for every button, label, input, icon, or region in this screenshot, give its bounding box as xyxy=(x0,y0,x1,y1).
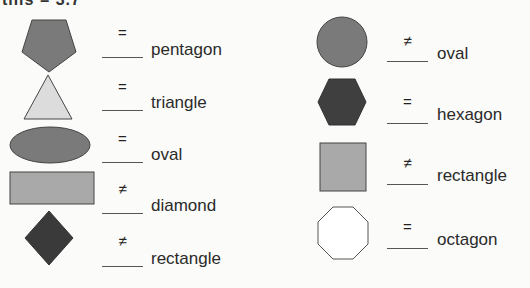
shape-label: octagon xyxy=(437,230,498,250)
answer-row: ≠ rectangle xyxy=(102,232,302,272)
answer-row: ≠ rectangle xyxy=(387,154,530,194)
answer-row: = triangle xyxy=(102,78,302,118)
comparison-mark: = xyxy=(102,78,143,95)
answer-blank[interactable] xyxy=(102,162,143,163)
circle-shape-icon xyxy=(316,16,368,68)
worksheet-heading-cropped: this = 3.7 xyxy=(2,0,81,9)
answer-blank[interactable] xyxy=(387,184,428,185)
answer-blank[interactable] xyxy=(387,248,428,249)
answer-row: = hexagon xyxy=(387,93,530,133)
pentagon-shape-icon xyxy=(21,19,77,73)
answer-row: = pentagon xyxy=(102,24,302,64)
shape-label: diamond xyxy=(151,196,216,216)
answer-row: = oval xyxy=(102,130,302,170)
oval-shape-icon xyxy=(9,126,91,164)
answer-row: = octagon xyxy=(387,218,530,258)
comparison-mark: ≠ xyxy=(102,180,143,197)
shape-label: hexagon xyxy=(437,105,502,125)
answer-blank[interactable] xyxy=(102,266,143,267)
octagon-shape-icon xyxy=(317,206,369,260)
rectangle-shape-icon xyxy=(9,171,95,205)
comparison-mark: ≠ xyxy=(102,232,143,249)
answer-row: ≠ diamond xyxy=(102,180,302,220)
shape-label: pentagon xyxy=(151,40,222,60)
comparison-mark: = xyxy=(387,93,428,110)
comparison-mark: ≠ xyxy=(387,32,428,49)
answer-blank[interactable] xyxy=(387,123,428,124)
hexagon-shape-icon xyxy=(317,78,367,126)
square-shape-icon xyxy=(319,142,367,192)
diamond-shape-icon xyxy=(24,210,74,266)
shape-label: oval xyxy=(437,44,468,64)
answer-blank[interactable] xyxy=(387,61,428,62)
comparison-mark: ≠ xyxy=(387,154,428,171)
answer-blank[interactable] xyxy=(102,57,143,58)
shape-label: triangle xyxy=(151,93,207,113)
answer-blank[interactable] xyxy=(102,213,143,214)
shape-label: oval xyxy=(151,145,182,165)
triangle-shape-icon xyxy=(23,74,73,120)
answer-blank[interactable] xyxy=(102,110,143,111)
comparison-mark: = xyxy=(387,218,428,235)
comparison-mark: = xyxy=(102,24,143,41)
answer-row: ≠ oval xyxy=(387,32,530,72)
shape-label: rectangle xyxy=(151,249,221,269)
comparison-mark: = xyxy=(102,130,143,147)
shape-label: rectangle xyxy=(437,166,507,186)
